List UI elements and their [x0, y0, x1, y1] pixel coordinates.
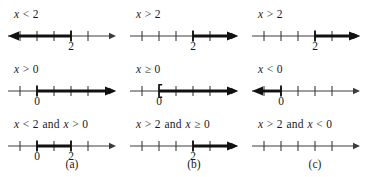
number-line-cell-r1c1: x < 22 — [0, 8, 123, 65]
inequality-label-r1c1: x < 2 — [14, 8, 39, 21]
tick-number-r2c1-0: 0 — [30, 95, 44, 107]
number-line-axis-r1c1 — [0, 23, 123, 49]
inequality-label-r2c1: x > 0 — [14, 63, 39, 76]
tick-number-r1c1-0: 2 — [64, 40, 78, 52]
tick-number-r3c1-0: 0 — [30, 150, 44, 162]
inequality-label-r3c2: x > 2 and x ≥ 0 — [136, 118, 210, 131]
solution-arrow-right-r1c3 — [349, 31, 360, 40]
axis-arrow-right-r1c1 — [109, 33, 116, 39]
panel-letter-c: (c) — [295, 158, 335, 170]
solution-arrow-left-r1c1 — [8, 31, 19, 40]
tick-number-r1c2-0: 2 — [186, 40, 200, 52]
axis-arrow-right-r3c3 — [353, 143, 360, 149]
number-line-figure: x < 22x > 22x > 22x > 00x ≥ 00x < 00x < … — [0, 0, 370, 177]
panel-letter-b: (b) — [174, 158, 214, 170]
inequality-label-r3c1: x < 2 and x > 0 — [14, 118, 88, 131]
solution-arrow-right-r1c2 — [227, 31, 238, 40]
axis-arrow-right-r3c1 — [109, 143, 116, 149]
tick-number-r2c3-0: 0 — [274, 95, 288, 107]
axis-arrow-right-r2c3 — [353, 88, 360, 94]
tick-number-r1c3-0: 2 — [308, 40, 322, 52]
solution-arrow-left-r2c3 — [252, 86, 263, 95]
number-line-axis-r2c1 — [0, 78, 123, 104]
number-line-axis-r3c2 — [122, 133, 245, 159]
number-line-axis-r1c2 — [122, 23, 245, 49]
number-line-cell-r2c1: x > 00 — [0, 63, 123, 120]
panel-letter-a: (a) — [52, 158, 92, 170]
number-line-axis-r3c1 — [0, 133, 123, 159]
solution-arrow-right-r3c2 — [227, 141, 238, 150]
solution-arrow-right-r2c1 — [105, 86, 116, 95]
inequality-label-r3c3: x > 2 and x < 0 — [258, 118, 332, 131]
number-line-axis-r2c3 — [244, 78, 367, 104]
number-line-cell-r2c2: x ≥ 00 — [122, 63, 245, 120]
number-line-axis-r3c3 — [244, 133, 367, 159]
number-line-cell-r1c2: x > 22 — [122, 8, 245, 65]
number-line-cell-r1c3: x > 22 — [244, 8, 367, 65]
solution-arrow-right-r2c2 — [227, 86, 238, 95]
tick-number-r2c2-0: 0 — [152, 95, 166, 107]
number-line-axis-r2c2 — [122, 78, 245, 104]
inequality-label-r1c2: x > 2 — [136, 8, 161, 21]
inequality-label-r2c2: x ≥ 0 — [136, 63, 160, 76]
inequality-label-r1c3: x > 2 — [258, 8, 283, 21]
number-line-cell-r2c3: x < 00 — [244, 63, 367, 120]
number-line-axis-r1c3 — [244, 23, 367, 49]
inequality-label-r2c3: x < 0 — [258, 63, 283, 76]
